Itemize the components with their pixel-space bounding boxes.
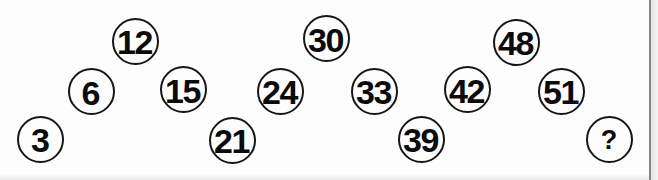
circle-value: 15 xyxy=(165,73,200,107)
circle-24: 24 xyxy=(257,68,304,115)
page-edge-fill xyxy=(651,0,658,180)
circle-value: 51 xyxy=(543,75,578,109)
circle-48: 48 xyxy=(493,19,540,66)
circle-15: 15 xyxy=(160,66,207,113)
circle-value: 30 xyxy=(308,22,343,56)
circle-value: 6 xyxy=(82,75,101,109)
circle-30: 30 xyxy=(303,15,350,62)
circle-12: 12 xyxy=(112,18,159,65)
circle-value: 33 xyxy=(356,75,391,109)
circle-21: 21 xyxy=(209,117,256,164)
circle-value: 39 xyxy=(403,123,438,157)
circle-39: 39 xyxy=(398,116,445,163)
circle-value: 12 xyxy=(117,25,152,59)
circle-value: 42 xyxy=(449,73,484,107)
circle-42: 42 xyxy=(444,66,491,113)
circle-value: 48 xyxy=(498,26,533,60)
circle-6: 6 xyxy=(68,68,115,115)
circle-33: 33 xyxy=(351,68,398,115)
circle-value: 21 xyxy=(214,124,249,158)
circle-value: 24 xyxy=(262,75,297,109)
circle-3: 3 xyxy=(17,116,64,163)
scan-shadow-bottom xyxy=(0,174,649,180)
puzzle-canvas: 3 6 12 15 21 24 30 33 39 42 48 51 ? xyxy=(0,0,658,180)
circle-51: 51 xyxy=(538,68,585,115)
circle-question-mark: ? xyxy=(586,116,633,163)
page-edge-line xyxy=(649,0,651,180)
circle-value: ? xyxy=(601,126,618,153)
circle-value: 3 xyxy=(31,123,50,157)
